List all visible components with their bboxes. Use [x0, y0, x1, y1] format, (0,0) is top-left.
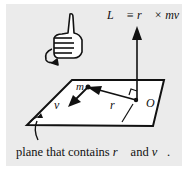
angular-momentum-equation: L⃗ ≡ r⃗ × mv⃗ [107, 8, 185, 23]
caption-suffix: . [167, 145, 170, 159]
caption-prefix: plane that contains [16, 145, 113, 159]
origin-label: O [146, 96, 155, 111]
mass-label: m [76, 80, 84, 92]
velocity-label: v⃗ [54, 98, 69, 113]
caption-middle: and [127, 145, 151, 159]
l-vector-arrowhead [132, 26, 142, 40]
caption: plane that contains r⃗ and v⃗. [16, 145, 170, 160]
caption-r: r⃗ [113, 145, 128, 159]
caption-v: v⃗ [152, 145, 167, 159]
right-hand-icon [46, 14, 82, 65]
position-label: r⃗ [110, 98, 124, 113]
origin-dot [134, 98, 138, 102]
